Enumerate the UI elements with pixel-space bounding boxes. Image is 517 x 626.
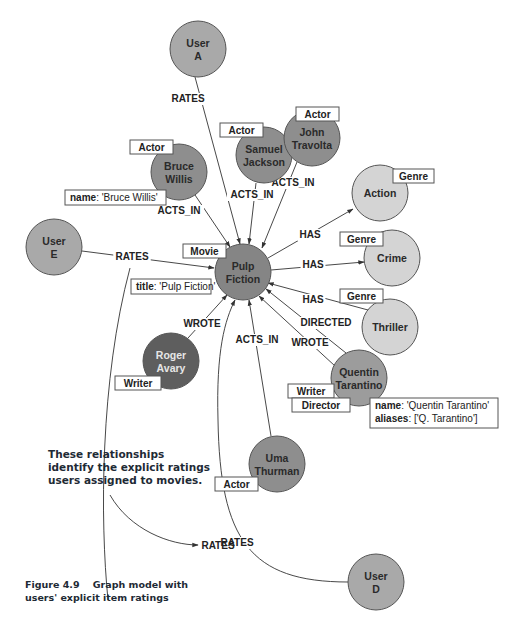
relationship-edge: ACTS_IN: [227, 183, 277, 244]
node-name-line-1: Roger: [156, 349, 186, 361]
node-name-line-1: User: [186, 37, 209, 49]
annotation-line-1: These relationships: [48, 448, 210, 461]
label-tag-director: Director: [292, 398, 350, 412]
node-name-line-2: A: [194, 50, 202, 62]
edge-label: RATES: [171, 93, 204, 104]
property-box: title: 'Pulp Fiction': [131, 279, 215, 294]
relationship-edge: WROTE: [183, 295, 227, 338]
edge-label: WROTE: [183, 318, 221, 329]
graph-canvas: RATESACTS_INACTS_INACTS_INRATESHASHASHAS…: [0, 0, 517, 626]
label-tag-writer: Writer: [115, 376, 161, 390]
label-tag-actor: Actor: [215, 477, 258, 491]
label-tag-genre: Genre: [340, 289, 383, 303]
node-name: Action: [364, 187, 397, 199]
node-name-line-1: John: [299, 126, 324, 138]
tag-text: Director: [302, 400, 340, 411]
node-name-line-2: Jackson: [243, 156, 285, 168]
property-key: name: [70, 192, 97, 203]
node-name-line-1: Pulp: [232, 260, 255, 272]
relationship-edge: WROTE: [259, 296, 335, 366]
node-thriller: Thriller: [362, 299, 418, 355]
label-tag-writer: Writer: [288, 384, 334, 398]
caption-line-1: Figure 4.9 Graph model with: [25, 578, 188, 591]
tag-text: Actor: [138, 142, 164, 153]
property-value: : 'Bruce Willis': [96, 192, 158, 203]
annotation-text: These relationships identify the explici…: [48, 448, 210, 487]
node-userA: UserA: [170, 21, 226, 77]
tag-text: Actor: [223, 479, 249, 490]
label-tag-genre: Genre: [340, 232, 383, 246]
property-box: name: 'Quentin Tarantino'aliases: ['Q. T…: [370, 398, 498, 428]
property-line: title: 'Pulp Fiction': [136, 281, 215, 292]
label-tag-actor: Actor: [296, 107, 339, 121]
label-tag-actor: Actor: [220, 123, 263, 137]
graph-diagram: RATESACTS_INACTS_INACTS_INRATESHASHASHAS…: [0, 0, 517, 626]
node-userD: UserD: [348, 554, 404, 610]
tag-text: Genre: [347, 234, 376, 245]
edge-label: HAS: [302, 259, 323, 270]
node-name-line-2: Travolta: [292, 139, 332, 151]
tag-text: Writer: [124, 378, 153, 389]
edge-label: HAS: [299, 229, 320, 240]
node-circle: [348, 554, 404, 610]
tag-text: Writer: [297, 386, 326, 397]
properties-layer: name: 'Bruce Willis'title: 'Pulp Fiction…: [65, 190, 498, 428]
edge-line: [188, 295, 227, 338]
annotation-line-2: identify the explicit ratings: [48, 461, 210, 474]
edge-label: HAS: [302, 294, 323, 305]
property-line: name: 'Bruce Willis': [70, 192, 158, 203]
property-line: aliases: ['Q. Tarantino']: [375, 413, 478, 424]
property-box: name: 'Bruce Willis': [65, 190, 166, 205]
caption-line-2: users' explicit item ratings: [25, 591, 188, 604]
property-value: : 'Pulp Fiction': [154, 281, 216, 292]
node-name-line-2: Tarantino: [335, 379, 382, 391]
node-name-line-1: Quentin: [339, 366, 379, 378]
tag-text: Actor: [228, 125, 254, 136]
annotation-line-3: users assigned to movies.: [48, 474, 210, 487]
node-name-line-1: User: [42, 235, 65, 247]
tag-text: Actor: [304, 109, 330, 120]
node-name: Thriller: [372, 321, 408, 333]
edge-line: [259, 296, 335, 366]
node-name-line-1: Samuel: [245, 143, 282, 155]
annotation-pointer: RATES: [110, 495, 235, 551]
edge-label: ACTS_IN: [158, 205, 201, 216]
tag-text: Genre: [399, 171, 428, 182]
node-name-line-2: D: [372, 583, 380, 595]
edge-line: [249, 300, 271, 436]
edge-label: DIRECTED: [300, 317, 351, 328]
edge-line: [195, 195, 230, 247]
node-name-line-2: E: [50, 248, 57, 260]
property-key: aliases: [375, 413, 409, 424]
node-name-line-1: Bruce: [164, 160, 194, 172]
nodes-layer: UserABruceWillisSamuelJacksonJohnTravolt…: [26, 21, 420, 610]
property-line: name: 'Quentin Tarantino': [375, 400, 489, 411]
figure-caption: Figure 4.9 Graph model with users' expli…: [25, 578, 188, 604]
label-tag-actor: Actor: [130, 140, 173, 154]
edge-label: ACTS_IN: [231, 189, 274, 200]
edge-label: RATES: [115, 251, 148, 262]
edge-label: ACTS_IN: [236, 334, 279, 345]
node-name-line-2: Willis: [165, 173, 192, 185]
node-circle: [170, 21, 226, 77]
relationship-edge: [103, 268, 130, 600]
node-userE: UserE: [26, 219, 82, 275]
property-value: : ['Q. Tarantino']: [408, 413, 477, 424]
node-name: Crime: [377, 252, 407, 264]
tag-text: Movie: [190, 246, 219, 257]
property-key: name: [375, 400, 402, 411]
annotation-pointer-label: RATES: [201, 540, 234, 551]
edge-label: WROTE: [291, 337, 329, 348]
label-tag-movie: Movie: [183, 244, 226, 258]
tag-text: Genre: [347, 291, 376, 302]
property-key: title: [136, 281, 154, 292]
node-circle: [26, 219, 82, 275]
node-name-line-1: User: [364, 570, 387, 582]
edge-line: [103, 268, 130, 600]
label-tag-genre: Genre: [393, 169, 434, 183]
node-name-line-2: Avary: [157, 362, 186, 374]
node-name-line-2: Thurman: [255, 465, 300, 477]
node-name-line-2: Fiction: [226, 273, 260, 285]
relationship-edge: ACTS_IN: [232, 300, 282, 436]
node-name-line-1: Uma: [266, 452, 289, 464]
